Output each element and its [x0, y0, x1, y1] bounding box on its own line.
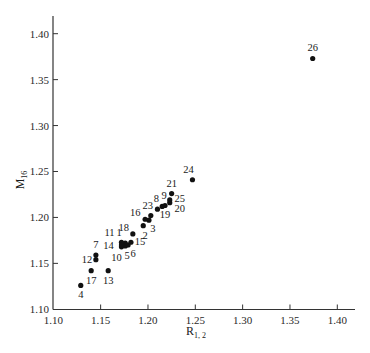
point-label: 26	[307, 42, 318, 53]
point-label: 4	[78, 289, 84, 300]
point-label: 21	[166, 178, 177, 189]
data-point: 13	[103, 268, 114, 286]
point-label: 14	[103, 240, 114, 251]
point-marker	[93, 257, 98, 262]
point-label: 24	[183, 164, 194, 175]
point-label: 11	[104, 227, 114, 238]
point-marker	[89, 268, 94, 273]
data-points: 1234567891011121314151617181920212324252…	[78, 42, 318, 300]
y-ticks: 1.101.151.201.251.301.351.40	[30, 28, 58, 316]
x-ticks: 1.101.151.201.251.301.351.40	[44, 305, 348, 327]
x-tick-label: 1.10	[44, 314, 64, 326]
point-marker	[93, 252, 98, 257]
y-tick-label: 1.25	[30, 165, 50, 177]
point-label: 25	[174, 193, 185, 204]
point-label: 10	[111, 252, 122, 263]
point-marker	[167, 197, 172, 202]
x-axis-title: R1, 2	[186, 324, 206, 340]
x-tick-label: 1.35	[280, 314, 300, 326]
point-label: 9	[162, 190, 167, 201]
x-tick-label: 1.20	[138, 314, 158, 326]
point-marker	[148, 213, 153, 218]
point-label: 7	[93, 239, 98, 250]
data-point: 4	[78, 283, 84, 301]
point-marker	[119, 242, 124, 247]
point-label: 12	[82, 254, 93, 265]
point-marker	[162, 203, 167, 208]
point-label: 18	[119, 222, 130, 233]
axes	[53, 16, 355, 310]
point-label: 6	[130, 248, 135, 259]
y-tick-label: 1.15	[30, 257, 50, 269]
x-tick-label: 1.15	[91, 314, 111, 326]
point-label: 5	[125, 250, 130, 261]
point-label: 17	[86, 275, 97, 286]
point-marker	[78, 283, 83, 288]
y-tick-label: 1.35	[30, 74, 50, 86]
point-label: 3	[150, 223, 155, 234]
point-label: 13	[103, 275, 114, 286]
point-marker	[128, 240, 133, 245]
point-marker	[143, 217, 148, 222]
data-point: 23	[143, 200, 154, 219]
point-marker	[310, 56, 315, 61]
y-tick-label: 1.20	[30, 211, 50, 223]
data-point: 7	[93, 239, 98, 258]
point-label: 8	[154, 193, 159, 204]
x-tick-label: 1.30	[233, 314, 253, 326]
data-point: 17	[86, 268, 97, 286]
point-label: 16	[130, 207, 141, 218]
point-label: 20	[174, 203, 185, 214]
point-label: 23	[143, 200, 154, 211]
y-axis-title: M16	[13, 171, 29, 190]
point-label: 15	[135, 236, 146, 247]
point-marker	[130, 231, 135, 236]
point-label: 19	[160, 209, 171, 220]
data-point: 15	[128, 236, 145, 247]
y-tick-label: 1.40	[30, 28, 50, 40]
data-point: 24	[183, 164, 195, 183]
y-tick-label: 1.30	[30, 120, 50, 132]
point-marker	[169, 191, 174, 196]
x-tick-label: 1.40	[328, 314, 348, 326]
point-marker	[190, 177, 195, 182]
scatter-chart: 1.101.151.201.251.301.351.40 1.101.151.2…	[0, 0, 370, 353]
data-point: 26	[307, 42, 318, 61]
point-marker	[106, 268, 111, 273]
point-marker	[141, 223, 146, 228]
